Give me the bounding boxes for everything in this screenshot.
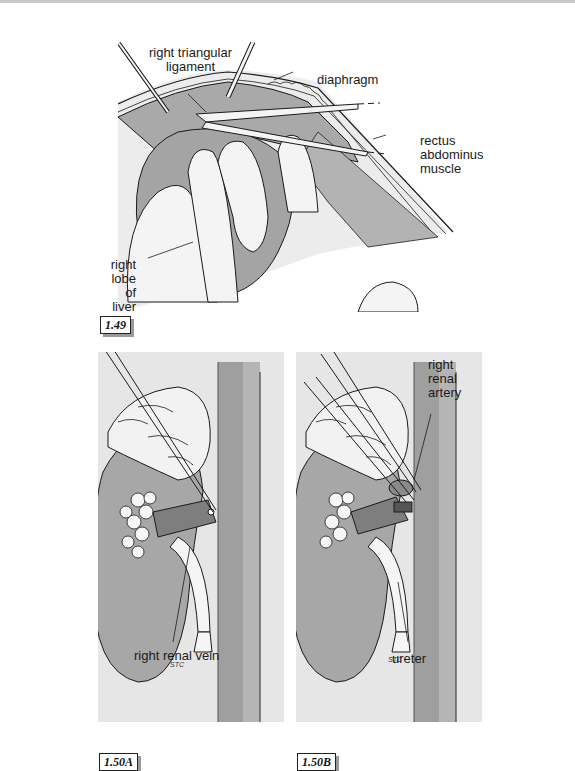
kidney-vein-ligation-illustration: STC: [98, 352, 284, 722]
label-ureter: ureter: [392, 652, 426, 666]
label-right-triangular-ligament: right triangular ligament: [138, 46, 243, 74]
figure-tag-1-50a: 1.50A: [99, 753, 138, 771]
figure-tag-1-50b: 1.50B: [297, 753, 336, 771]
figure-1-49: [118, 42, 458, 312]
label-diaphragm: diaphragm: [317, 73, 378, 87]
liver-retraction-illustration: [118, 42, 458, 312]
label-rectus-abdominus-muscle: rectus abdominus muscle: [420, 134, 484, 176]
figure-1-50a: STC: [98, 352, 284, 722]
kidney-artery-ligation-illustration: STC: [296, 352, 482, 722]
figure-1-50b: STC: [296, 352, 482, 722]
figure-tag-1-49: 1.49: [100, 316, 131, 334]
label-right-renal-vein: right renal vein: [134, 649, 219, 663]
label-right-lobe-of-liver: right lobe of liver: [96, 258, 136, 314]
page-top-border: [0, 0, 575, 3]
label-right-renal-artery: right renal artery: [428, 358, 461, 400]
